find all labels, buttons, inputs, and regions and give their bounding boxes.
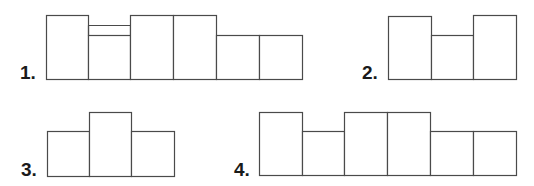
column-box: [431, 132, 474, 176]
column-box: [388, 113, 431, 176]
column-box: [345, 113, 388, 176]
column-box: [303, 132, 345, 176]
column-box: [474, 132, 517, 176]
column-box: [260, 113, 303, 176]
figure-4-shape: [0, 0, 534, 186]
